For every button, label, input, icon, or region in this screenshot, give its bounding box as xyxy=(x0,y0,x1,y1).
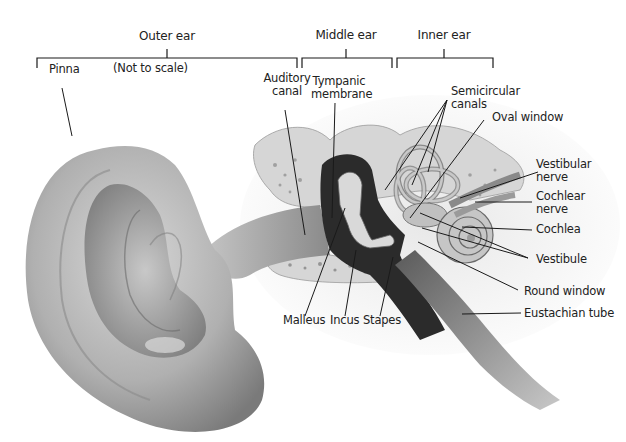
label-semicircular-canals-line2: canals xyxy=(451,98,487,111)
label-malleus: Malleus xyxy=(283,314,325,327)
ear-anatomy-diagram: Outer ear Middle ear Inner ear Pinna (No… xyxy=(0,0,626,442)
label-incus: Incus xyxy=(330,314,359,327)
label-pinna: Pinna xyxy=(49,63,80,76)
group-label-middle-ear: Middle ear xyxy=(311,29,381,42)
label-tympanic-membrane-line2: membrane xyxy=(311,88,367,101)
label-vestibular-nerve-line2: nerve xyxy=(536,171,568,184)
label-stapes: Stapes xyxy=(363,314,401,327)
label-vestibule: Vestibule xyxy=(536,253,587,266)
label-round-window: Round window xyxy=(524,285,605,298)
label-auditory-canal-line2: canal xyxy=(262,85,312,98)
group-brackets xyxy=(37,49,493,68)
ear-illustration xyxy=(0,0,626,442)
label-cochlear-nerve-line2: nerve xyxy=(536,203,568,216)
group-label-inner-ear: Inner ear xyxy=(414,29,474,42)
label-eustachian-tube: Eustachian tube xyxy=(524,307,614,320)
label-cochlea: Cochlea xyxy=(536,223,581,236)
group-label-outer-ear: Outer ear xyxy=(137,30,197,43)
label-oval-window: Oval window xyxy=(492,111,563,124)
not-to-scale-note: (Not to scale) xyxy=(113,62,188,75)
